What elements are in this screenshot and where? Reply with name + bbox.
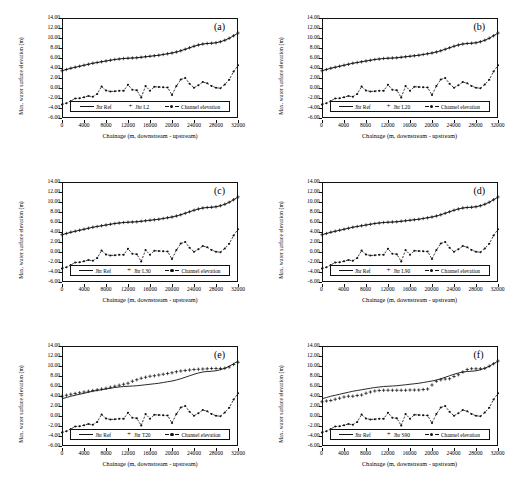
series-markers-channel xyxy=(320,64,498,105)
legend-label-ref: Jhr Ref xyxy=(96,104,112,110)
series-line-ref xyxy=(322,361,498,399)
legend-item-ref: Jhr Ref xyxy=(80,104,112,110)
legend-line-swatch xyxy=(339,270,353,271)
legend-label-channel: Channel elevation xyxy=(441,268,480,274)
legend-item-variant: +Jhr L2 xyxy=(127,103,149,110)
legend-label-ref: Jhr Ref xyxy=(355,432,371,438)
legend-label-variant: Jhr L30 xyxy=(134,268,151,274)
legend-label-variant: Jhr T20 xyxy=(134,432,151,438)
figure-multi-panel: Max. water surface elevation (m)14.0012.… xyxy=(0,0,519,492)
series-markers-channel xyxy=(61,64,239,105)
dashed-dot-swatch xyxy=(165,104,179,109)
series-line-channel xyxy=(322,65,498,104)
chart-panel-a: Max. water surface elevation (m)14.0012.… xyxy=(0,0,259,164)
legend-item-variant: +Jhr L90 xyxy=(386,267,411,274)
panel-tag: (f) xyxy=(474,349,484,360)
legend-label-variant: Jhr S90 xyxy=(394,432,410,438)
plus-marker-icon: + xyxy=(386,267,392,274)
chart-panel-f: Max. water surface elevation (m)14.0012.… xyxy=(260,328,519,492)
series-line-channel xyxy=(62,229,238,268)
dot-marker-icon xyxy=(430,433,433,436)
panel-tag: (a) xyxy=(214,21,225,32)
dot-marker-icon xyxy=(430,269,433,272)
series-markers-channel xyxy=(61,392,239,433)
legend: Jhr Ref+Jhr S90Channel elevation xyxy=(330,429,490,440)
legend: Jhr Ref+Jhr L20Channel elevation xyxy=(330,101,490,112)
legend-label-ref: Jhr Ref xyxy=(95,268,111,274)
dashed-dot-swatch xyxy=(425,104,439,109)
legend-label-variant: Jhr L2 xyxy=(135,104,149,110)
plus-marker-icon: + xyxy=(126,267,132,274)
legend-item-channel: Channel elevation xyxy=(425,268,480,274)
dot-marker-icon xyxy=(170,269,173,272)
legend-item-variant: +Jhr T20 xyxy=(126,431,151,438)
plus-marker-icon: + xyxy=(127,103,133,110)
legend-label-channel: Channel elevation xyxy=(181,432,220,438)
legend-item-channel: Channel elevation xyxy=(165,432,220,438)
series-markers-variant xyxy=(320,195,499,236)
legend-label-channel: Channel elevation xyxy=(441,432,480,438)
series-line-channel xyxy=(322,393,498,432)
dot-marker-icon xyxy=(170,433,173,436)
legend: Jhr Ref+Jhr L2Channel elevation xyxy=(70,101,230,112)
series-line-ref xyxy=(62,361,238,399)
legend-item-ref: Jhr Ref xyxy=(79,432,111,438)
series-markers-channel xyxy=(61,228,239,269)
legend-item-channel: Channel elevation xyxy=(425,432,480,438)
chart-panel-b: Max. water surface elevation (m)14.0012.… xyxy=(260,0,519,164)
legend-label-variant: Jhr L20 xyxy=(394,104,411,110)
series-markers-variant xyxy=(320,31,499,72)
series-line-channel xyxy=(322,229,498,268)
legend-label-ref: Jhr Ref xyxy=(355,104,371,110)
legend-item-channel: Channel elevation xyxy=(165,268,220,274)
plus-marker-icon: + xyxy=(386,103,392,110)
legend-line-swatch xyxy=(339,434,353,435)
legend-item-channel: Channel elevation xyxy=(165,104,220,110)
legend-item-variant: +Jhr S90 xyxy=(386,431,410,438)
chart-panel-c: Max. water surface elevation (m)14.0012.… xyxy=(0,164,259,328)
dot-marker-icon xyxy=(170,105,173,108)
legend-line-swatch xyxy=(79,434,93,435)
legend-item-channel: Channel elevation xyxy=(425,104,480,110)
series-line-channel xyxy=(62,393,238,432)
plus-marker-icon: + xyxy=(386,431,392,438)
legend: Jhr Ref+Jhr T20Channel elevation xyxy=(70,429,230,440)
legend: Jhr Ref+Jhr L90Channel elevation xyxy=(330,265,490,276)
legend-item-variant: +Jhr L30 xyxy=(126,267,151,274)
panel-tag: (c) xyxy=(214,185,225,196)
legend-line-swatch xyxy=(80,106,94,107)
panel-tag: (d) xyxy=(474,185,486,196)
legend: Jhr Ref+Jhr L30Channel elevation xyxy=(70,265,230,276)
legend-label-channel: Channel elevation xyxy=(181,268,220,274)
series-markers-variant xyxy=(320,359,499,403)
panel-tag: (b) xyxy=(474,21,486,32)
legend-label-channel: Channel elevation xyxy=(181,104,220,110)
legend-label-variant: Jhr L90 xyxy=(394,268,411,274)
legend-item-ref: Jhr Ref xyxy=(339,104,371,110)
legend-item-ref: Jhr Ref xyxy=(339,432,371,438)
legend-item-ref: Jhr Ref xyxy=(79,268,111,274)
chart-panel-e: Max. water surface elevation (m)14.0012.… xyxy=(0,328,259,492)
dashed-dot-swatch xyxy=(425,268,439,273)
legend-label-ref: Jhr Ref xyxy=(95,432,111,438)
series-markers-variant xyxy=(60,31,239,72)
legend-line-swatch xyxy=(339,106,353,107)
legend-label-ref: Jhr Ref xyxy=(355,268,371,274)
series-markers-variant xyxy=(60,195,239,236)
dashed-dot-swatch xyxy=(425,432,439,437)
dot-marker-icon xyxy=(430,105,433,108)
dashed-dot-swatch xyxy=(165,432,179,437)
series-markers-channel xyxy=(320,228,498,269)
legend-label-channel: Channel elevation xyxy=(441,104,480,110)
legend-line-swatch xyxy=(79,270,93,271)
series-markers-channel xyxy=(320,392,498,433)
panel-tag: (e) xyxy=(214,349,225,360)
legend-item-ref: Jhr Ref xyxy=(339,268,371,274)
series-line-channel xyxy=(62,65,238,104)
plus-marker-icon: + xyxy=(126,431,132,438)
dashed-dot-swatch xyxy=(165,268,179,273)
legend-item-variant: +Jhr L20 xyxy=(386,103,411,110)
chart-panel-d: Max. water surface elevation (m)14.0012.… xyxy=(260,164,519,328)
